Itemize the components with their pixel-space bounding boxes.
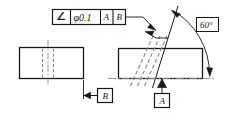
fcf-tolerance-value: φ0.1 — [74, 13, 92, 23]
left-view-outline — [20, 48, 84, 79]
angle-dimension-value: 60° — [200, 21, 213, 30]
datum-b-group — [84, 80, 113, 103]
fcf-secondary-leader-arrowhead — [145, 31, 154, 36]
datum-a-label: A — [160, 97, 166, 106]
datum-b-triangle-icon — [84, 92, 91, 98]
fcf-secondary-datum-letter: B — [117, 13, 123, 22]
fcf-primary-datum-letter: A — [104, 13, 110, 22]
drawing-vector-layer — [0, 0, 231, 121]
angle-arc-arrowhead-bottom — [207, 68, 213, 77]
feature-control-frame-group — [53, 10, 169, 39]
datum-b-label: B — [103, 92, 109, 101]
fcf-angularity-symbol: ∠ — [56, 11, 66, 22]
datum-a-triangle-icon — [158, 79, 167, 88]
left-view-group — [20, 40, 84, 86]
fcf-leader-arrowhead — [148, 24, 157, 31]
engineering-drawing-canvas: ∠ φ0.1 A B 60° B A — [0, 0, 231, 121]
